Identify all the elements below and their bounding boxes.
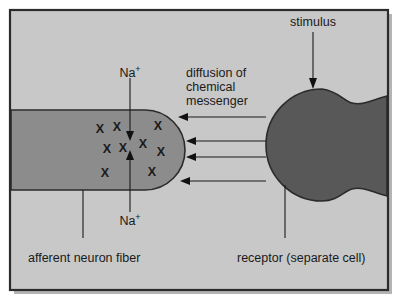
sodium-top-base: Na xyxy=(119,66,135,80)
diffusion-label-line-3: messenger xyxy=(186,94,248,108)
ion-mark: X xyxy=(119,141,128,155)
ion-mark: X xyxy=(101,166,110,180)
receptor-cell-shape xyxy=(266,89,387,201)
ion-mark: X xyxy=(113,120,122,134)
ion-mark: X xyxy=(103,142,112,156)
ion-mark: X xyxy=(139,137,148,151)
receptor-label: receptor (separate cell) xyxy=(237,251,366,265)
afferent-neuron-fiber-label: afferent neuron fiber xyxy=(28,251,140,265)
ion-mark: X xyxy=(154,119,163,133)
sodium-bottom-charge: + xyxy=(135,212,140,222)
ion-mark: X xyxy=(157,145,166,159)
ion-mark: X xyxy=(148,165,157,179)
diffusion-label-line-1: diffusion of xyxy=(186,66,247,80)
synapse-diagram: X X X X X X X X X xyxy=(0,0,400,304)
diffusion-label-line-2: chemical xyxy=(186,80,235,94)
diagram-figure: X X X X X X X X X xyxy=(0,0,400,304)
sodium-bottom-base: Na xyxy=(119,214,135,228)
ion-mark: X xyxy=(96,122,105,136)
stimulus-label: stimulus xyxy=(290,15,336,29)
sodium-top-charge: + xyxy=(135,64,140,74)
